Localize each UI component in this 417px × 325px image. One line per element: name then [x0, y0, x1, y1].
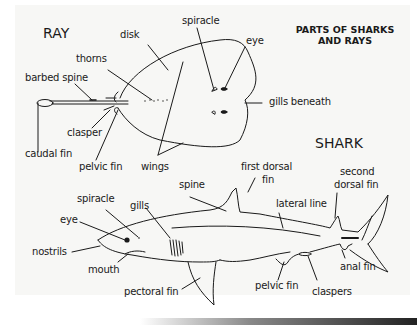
shark-label-anal-fin: anal fin — [340, 262, 376, 272]
ray-label-eye: eye — [246, 36, 264, 46]
ray-leaders — [38, 28, 262, 160]
shark-label-spiracle: spiracle — [77, 194, 114, 204]
ray-label-wings: wings — [141, 162, 169, 172]
shark-label-eye: eye — [60, 215, 78, 225]
ray-label-gills-beneath: gills beneath — [269, 97, 331, 107]
shark-label-claspers: claspers — [312, 287, 352, 297]
ray-label-disk: disk — [120, 30, 139, 40]
shark-label-pelvic-fin: pelvic fin — [255, 281, 298, 291]
ray-label-clasper: clasper — [67, 128, 102, 138]
ray-label-pelvic-fin: pelvic fin — [79, 162, 122, 172]
shark-label-first-dorsal-2: fin — [262, 175, 274, 185]
illustration — [0, 0, 417, 325]
shark-label-second-dorsal-1: second — [340, 167, 374, 177]
diagram-title: PARTS OF SHARKS AND RAYS — [285, 25, 405, 47]
shark-label-first-dorsal-1: first dorsal — [241, 162, 292, 172]
ray-label-barbed-spine: barbed spine — [25, 73, 88, 83]
shark-label-pectoral-fin: pectoral fin — [124, 287, 178, 297]
shark-label-lateral-line: lateral line — [276, 199, 327, 209]
title-line-2: AND RAYS — [285, 36, 405, 47]
ray-heading: RAY — [43, 26, 69, 40]
ray-label-spiracle: spiracle — [182, 16, 219, 26]
shark-label-spine: spine — [179, 180, 205, 190]
shark-label-second-dorsal-2: dorsal fin — [334, 180, 379, 190]
shark-label-nostrils: nostrils — [32, 247, 67, 257]
ray-label-caudal-fin: caudal fin — [25, 149, 72, 159]
ray-label-thorns: thorns — [76, 54, 107, 64]
shark-heading: SHARK — [315, 136, 363, 150]
shark-label-gills: gills — [130, 201, 149, 211]
shark-label-mouth: mouth — [88, 265, 119, 275]
